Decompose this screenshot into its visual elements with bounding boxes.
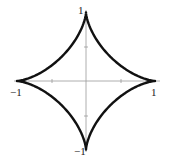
x-neg-label: −1 [10,86,22,98]
y-pos-label: 1 [78,4,84,16]
astroid-plot: −1 1 1 −1 [0,0,174,160]
axes [14,10,160,152]
y-neg-label: −1 [74,145,86,157]
x-pos-label: 1 [151,86,157,98]
